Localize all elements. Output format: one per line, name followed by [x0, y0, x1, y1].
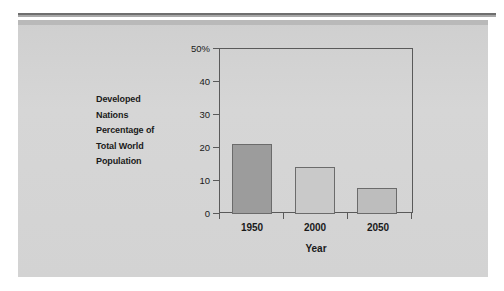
y-axis-label-10: 10 — [176, 175, 210, 186]
x-tick-1 — [283, 213, 284, 219]
x-tick-2 — [347, 213, 348, 219]
x-axis-title: Year — [219, 243, 413, 254]
chart-figure: Developed Nations Percentage of Total Wo… — [0, 0, 504, 291]
y-axis-labels: 50% 40 30 20 10 0 — [176, 41, 210, 221]
x-axis-label-2000: 2000 — [291, 222, 339, 233]
panel-top-shade — [18, 20, 488, 25]
y-tick-20 — [213, 147, 219, 148]
bar-1950 — [232, 144, 272, 214]
y-tick-30 — [213, 114, 219, 115]
y-tick-10 — [213, 180, 219, 181]
y-axis-label-20: 20 — [176, 142, 210, 153]
x-tick-start — [219, 213, 220, 219]
y-tick-50 — [213, 48, 219, 49]
x-axis-label-2050: 2050 — [354, 222, 402, 233]
bar-2050 — [357, 188, 397, 214]
y-tick-40 — [213, 81, 219, 82]
y-axis-label-30: 30 — [176, 109, 210, 120]
x-axis-label-1950: 1950 — [228, 222, 276, 233]
y-axis-label-40: 40 — [176, 76, 210, 87]
x-tick-end — [411, 213, 412, 219]
bar-2000 — [295, 167, 335, 214]
y-axis-label-50: 50% — [176, 43, 210, 54]
y-axis-label-0: 0 — [176, 208, 210, 219]
